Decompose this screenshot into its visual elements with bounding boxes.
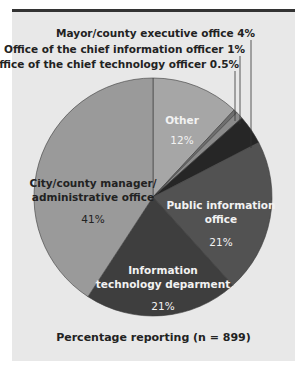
label-city-line2: administrative office: [32, 191, 154, 203]
label-pio-line2: office: [205, 213, 237, 225]
label-it-pct: 21%: [151, 300, 174, 312]
label-pio-pct: 21%: [209, 236, 232, 248]
label-it-line2: technology deparment: [96, 278, 230, 290]
label-pio-line1: Public information: [166, 199, 275, 211]
label-cio: Office of the chief information officer …: [4, 43, 245, 55]
label-mayor: Mayor/county executive office 4%: [56, 27, 255, 39]
label-other-pct: 12%: [170, 134, 193, 146]
label-it-line1: Information: [128, 264, 198, 276]
label-cto: Office of the chief technology officer 0…: [0, 58, 239, 70]
chart-caption: Percentage reporting (n = 899): [0, 331, 307, 344]
label-city-pct: 41%: [81, 213, 104, 225]
label-city-line1: City/county manager/: [29, 177, 156, 189]
label-other-name: Other: [165, 114, 200, 126]
pie-chart: Mayor/county executive office 4% Office …: [0, 0, 307, 373]
